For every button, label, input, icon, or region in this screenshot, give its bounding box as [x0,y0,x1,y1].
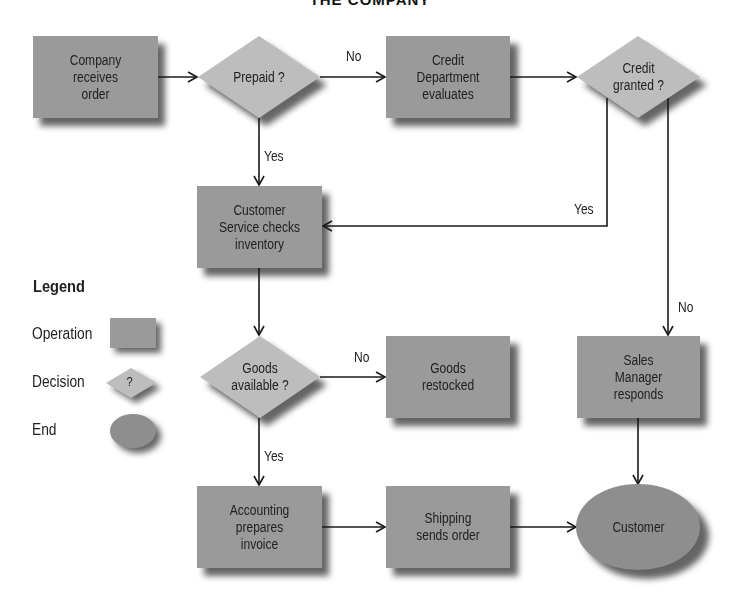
node-accounting-text: Accountingpreparesinvoice [206,486,314,568]
legend-operation-label: Operation [32,325,92,343]
node-goods-restocked-text: Goodsrestocked [395,336,502,418]
node-credit-granted-text: Creditgranted ? [586,36,692,118]
legend-operation-icon [110,318,156,348]
legend-end-icon [110,414,156,448]
legend-decision-label: Decision [32,373,85,391]
edge-label-credit-yes: Yes [574,201,594,217]
flowchart: THE COMPANY [0,0,740,616]
node-goods-available-text: Goodsavailable ? [208,336,311,418]
connectors [158,77,668,527]
node-customer-service-text: CustomerService checksinventory [206,186,314,268]
edge-label-prepaid-no: No [346,48,361,64]
node-receive-order-text: Companyreceivesorder [42,36,150,118]
legend-decision-glyph: ? [127,374,133,389]
edge-label-goods-yes: Yes [264,448,284,464]
node-prepaid-text: Prepaid ? [207,36,312,118]
legend-end-label: End [32,421,56,439]
node-sales-manager-text: SalesManagerresponds [586,336,692,418]
node-shipping-text: Shippingsends order [395,486,502,568]
edge-label-credit-no: No [678,299,693,315]
edge-label-goods-no: No [354,349,369,365]
node-credit-dept-text: CreditDepartmentevaluates [395,36,502,118]
edge-label-prepaid-yes: Yes [264,148,284,164]
legend-title: Legend [33,277,85,297]
node-customer-text: Customer [586,485,692,570]
